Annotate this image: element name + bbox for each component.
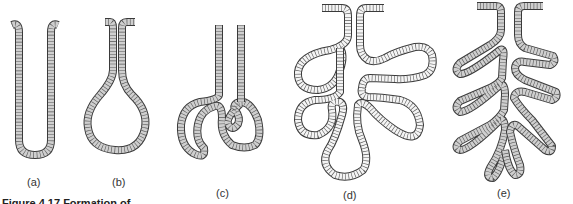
panel-label-e: (e)	[497, 187, 510, 199]
panel-label-b: (b)	[112, 176, 125, 188]
panel-label-c: (c)	[216, 187, 229, 199]
panel-label-d: (d)	[343, 189, 356, 201]
figure-caption: Figure 4.17 Formation of...	[2, 197, 140, 204]
panel-e-tube	[457, 6, 557, 178]
panel-b-tube	[88, 22, 146, 150]
figure-illustration	[0, 0, 573, 204]
panel-c-tube	[181, 25, 260, 156]
panel-a-tube	[12, 24, 58, 155]
panel-label-a: (a)	[27, 176, 40, 188]
panel-d-tube	[298, 8, 433, 177]
